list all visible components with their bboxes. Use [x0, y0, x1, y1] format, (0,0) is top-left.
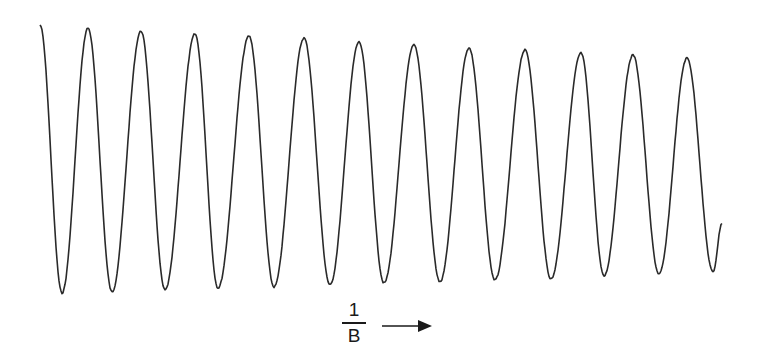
x-label-denominator: B	[340, 324, 368, 346]
signal-line	[40, 25, 722, 294]
oscillation-plot	[0, 0, 761, 363]
x-axis-label: 1 B	[340, 300, 368, 346]
arrow-right-icon	[382, 319, 434, 333]
x-label-numerator: 1	[340, 300, 368, 322]
